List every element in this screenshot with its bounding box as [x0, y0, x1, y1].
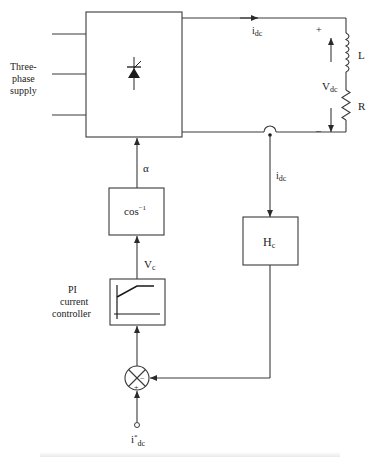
vdc-plus: +: [316, 24, 322, 35]
feedback-wire-to-summer: [150, 265, 270, 378]
inductor-icon: [346, 33, 349, 72]
summer-minus: −: [140, 374, 145, 383]
summer-plus: +: [134, 383, 139, 392]
inductor-label: L: [358, 49, 365, 61]
firing-angle-label: α: [143, 162, 149, 174]
diagram-canvas: Three- phase supply idc L R + – Vdc idc: [0, 0, 380, 457]
load-branch: [342, 18, 350, 132]
supply-label-line2: phase: [12, 73, 35, 84]
supply-label-line3: supply: [10, 85, 37, 96]
supply-label-line1: Three-: [10, 61, 37, 72]
reference-label: i*dc: [131, 433, 146, 448]
three-phase-supply-lines: [52, 34, 86, 115]
pi-label-line1: PI: [68, 284, 77, 295]
reference-input-terminal: [135, 423, 140, 428]
cut-off-caption: [40, 452, 340, 457]
dc-bottom-wire: [182, 126, 346, 132]
pi-label-line2: current: [60, 296, 89, 307]
vdc-label: Vdc: [322, 80, 338, 94]
pi-label-line3: controller: [52, 308, 92, 319]
control-voltage-label: Vc: [144, 258, 156, 272]
resistor-label: R: [358, 100, 366, 112]
idc-label: idc: [252, 25, 263, 38]
feedback-idc-label: idc: [276, 170, 287, 183]
vdc-minus: –: [315, 125, 322, 136]
resistor-icon: [342, 90, 350, 120]
